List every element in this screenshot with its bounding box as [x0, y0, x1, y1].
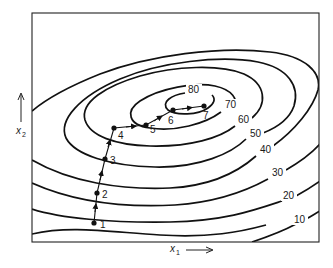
contour-label-70: 70 — [225, 99, 237, 110]
point-label-3: 3 — [110, 155, 116, 166]
contour-lines — [32, 50, 320, 242]
contour-label-30: 30 — [272, 167, 284, 178]
contour-label-20: 20 — [283, 190, 295, 201]
point-label-4: 4 — [118, 130, 124, 141]
path-point-2 — [94, 190, 99, 195]
y-axis-variable: x — [15, 125, 22, 136]
point-label-5: 5 — [150, 124, 156, 135]
contour-70 — [131, 85, 236, 129]
x-axis-subscript: 1 — [176, 249, 180, 256]
path-point-6 — [170, 107, 175, 112]
x-axis-variable: x — [169, 243, 176, 254]
path-point-5 — [143, 122, 148, 127]
arrow-4-5-icon — [126, 126, 136, 127]
arrow-2-3-icon — [100, 171, 102, 180]
arrow-1-2-icon — [95, 204, 96, 212]
contour-figure: 80 70 60 50 40 30 20 10 — [0, 0, 333, 268]
contour-label-10: 10 — [294, 214, 306, 225]
point-label-7: 7 — [203, 110, 209, 121]
contour-label-80: 80 — [188, 84, 200, 95]
path-point-7 — [201, 103, 206, 108]
point-label-2: 2 — [102, 189, 108, 200]
path-point-4 — [111, 125, 116, 130]
x-axis-label: x 1 — [169, 243, 213, 256]
path-point-1 — [91, 220, 96, 225]
contour-label-40: 40 — [260, 144, 272, 155]
y-axis-label: x 2 — [15, 93, 26, 138]
y-axis-subscript: 2 — [22, 131, 26, 138]
arrow-5-6-icon — [154, 116, 162, 121]
point-label-6: 6 — [168, 115, 174, 126]
contour-label-50: 50 — [250, 128, 262, 139]
point-label-1: 1 — [100, 219, 106, 230]
contour-10 — [32, 211, 320, 242]
contour-label-60: 60 — [238, 114, 250, 125]
path-point-3 — [102, 156, 107, 161]
contour-plot: 80 70 60 50 40 30 20 10 — [0, 0, 333, 268]
